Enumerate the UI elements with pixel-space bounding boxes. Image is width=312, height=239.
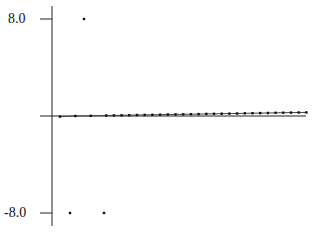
data-point	[228, 112, 230, 114]
data-point	[282, 112, 284, 114]
y-tick-label-top: 8.0	[8, 12, 26, 26]
data-point	[151, 114, 153, 116]
data-point	[159, 114, 161, 116]
data-point	[197, 113, 199, 115]
data-point	[144, 114, 146, 116]
data-point	[236, 112, 238, 114]
data-point	[174, 113, 176, 115]
data-point	[205, 113, 207, 115]
data-point	[120, 114, 122, 116]
data-point	[103, 212, 105, 214]
data-point	[259, 112, 261, 114]
data-point	[167, 113, 169, 115]
data-point	[74, 115, 76, 117]
data-point	[59, 115, 61, 117]
y-tick-label-bottom: -8.0	[4, 206, 26, 220]
data-point	[221, 113, 223, 115]
plot-canvas	[0, 0, 312, 239]
data-point	[267, 112, 269, 114]
data-point	[290, 111, 292, 113]
data-point	[274, 112, 276, 114]
data-point	[136, 114, 138, 116]
data-point	[190, 113, 192, 115]
data-point	[182, 113, 184, 115]
data-point	[128, 114, 130, 116]
data-point	[83, 18, 85, 20]
data-point	[213, 113, 215, 115]
data-point	[90, 115, 92, 117]
data-point	[105, 114, 107, 116]
scatter-plot: 8.0 -8.0	[0, 0, 312, 239]
data-point	[244, 112, 246, 114]
data-point	[298, 111, 300, 113]
data-point	[113, 114, 115, 116]
data-point	[251, 112, 253, 114]
data-point	[69, 212, 71, 214]
data-point	[305, 111, 307, 113]
